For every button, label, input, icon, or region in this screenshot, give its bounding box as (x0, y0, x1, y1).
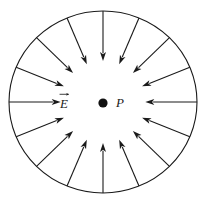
field-arrow-shaft (67, 147, 84, 186)
vector-arrow-icon (59, 90, 70, 96)
field-diagram-figure: E P (0, 0, 207, 204)
field-arrow-head (145, 99, 154, 105)
field-arrow-6 (37, 38, 74, 73)
field-arrow-shaft (149, 121, 190, 137)
field-arrow-shaft (37, 38, 68, 68)
field-arrow-shaft (122, 147, 139, 186)
field-arrow-shaft (37, 136, 68, 166)
field-arrow-14 (133, 131, 170, 166)
field-arrow-0 (145, 99, 197, 105)
field-diagram-canvas (0, 0, 207, 204)
field-arrow-8 (9, 99, 61, 105)
point-label-P: P (116, 96, 124, 109)
field-arrow-15 (142, 118, 190, 137)
field-arrow-shaft (139, 38, 170, 68)
field-arrow-7 (16, 67, 64, 86)
field-arrow-5 (67, 18, 87, 64)
field-arrow-shaft (16, 67, 57, 83)
field-arrow-shaft (149, 67, 190, 83)
field-arrow-10 (37, 131, 74, 166)
field-arrow-13 (119, 140, 139, 186)
field-arrow-4 (100, 11, 106, 61)
field-arrow-shaft (16, 121, 57, 137)
field-arrow-9 (16, 118, 64, 137)
field-arrow-head (100, 52, 106, 61)
field-arrow-1 (142, 67, 190, 86)
point-charge-group (98, 98, 107, 107)
field-label-E-text: E (60, 96, 68, 111)
field-arrow-12 (100, 143, 106, 193)
field-arrow-11 (67, 140, 87, 186)
field-arrow-shaft (122, 18, 139, 57)
field-arrow-shaft (139, 136, 170, 166)
field-arrow-2 (133, 38, 170, 73)
point-charge-dot (98, 98, 107, 107)
field-arrow-head (100, 143, 106, 152)
field-arrow-3 (119, 18, 139, 64)
field-arrow-shaft (67, 18, 84, 57)
field-label-E: E (60, 97, 68, 110)
